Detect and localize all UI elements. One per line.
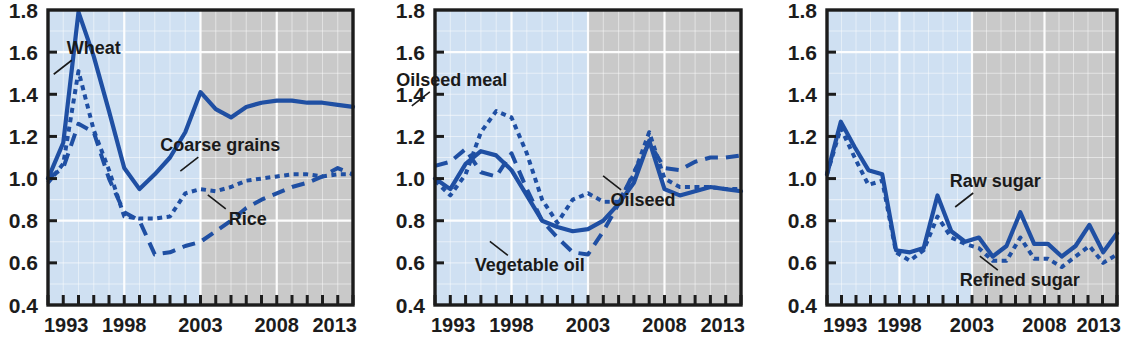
y-axis-tick-label: 1.6 (788, 41, 817, 64)
x-axis-tick-label: 1998 (102, 314, 147, 336)
x-axis-tick-label: 2013 (701, 314, 746, 336)
series-label-rice: Rice (229, 209, 267, 229)
y-axis-tick-label: 1.2 (396, 125, 425, 148)
y-axis-tick-label: 1.8 (396, 0, 426, 22)
y-axis-tick-label: 0.6 (396, 251, 425, 274)
x-axis-tick-label: 2003 (566, 314, 611, 336)
series-label-coarse-grains: Coarse grains (160, 135, 280, 155)
series-label-refined-sugar: Refined sugar (960, 270, 1080, 290)
series-label-vegetable-oil: Vegetable oil (475, 255, 585, 275)
y-axis-tick-label: 1.0 (788, 167, 817, 190)
y-axis-tick-label: 0.6 (788, 251, 817, 274)
series-label-oilseed-meal: Oilseed meal (396, 70, 507, 90)
y-axis-tick-label: 0.8 (788, 209, 818, 232)
x-axis-tick-label: 2003 (950, 314, 995, 336)
x-axis-tick-label: 2013 (1077, 314, 1122, 336)
y-axis-tick-label: 0.8 (9, 209, 39, 232)
chart-plot-area: 1.81.61.41.21.00.80.60.41993199820032008… (752, 0, 1130, 340)
y-axis-tick-label: 0.4 (9, 294, 39, 317)
y-axis-tick-label: 1.4 (788, 83, 818, 106)
y-axis-tick-label: 1.0 (396, 167, 425, 190)
x-axis-tick-label: 1998 (877, 314, 922, 336)
y-axis-tick-label: 1.2 (9, 125, 38, 148)
x-axis-tick-label: 1993 (823, 314, 868, 336)
x-axis-tick-label: 2003 (178, 314, 223, 336)
y-axis-tick-label: 1.8 (788, 0, 818, 22)
x-axis-tick-label: 2008 (642, 314, 687, 336)
chart-panel-2: 1.81.61.41.21.00.80.60.41993199820032008… (376, 0, 752, 340)
chart-plot-area: 1.81.61.41.21.00.80.60.41993199820032008… (376, 0, 752, 340)
x-axis-tick-label: 2013 (313, 314, 358, 336)
y-axis-tick-label: 1.6 (396, 41, 425, 64)
y-axis-tick-label: 1.2 (788, 125, 817, 148)
chart-panel-1: 1.81.61.41.21.00.80.60.41993199820032008… (0, 0, 376, 340)
y-axis-tick-label: 0.4 (788, 294, 818, 317)
y-axis-tick-label: 0.8 (396, 209, 426, 232)
chart-plot-area: 1.81.61.41.21.00.80.60.41993199820032008… (0, 0, 376, 340)
y-axis-tick-label: 1.8 (9, 0, 39, 22)
y-axis-tick-label: 1.0 (9, 167, 38, 190)
chart-panel-3: 1.81.61.41.21.00.80.60.41993199820032008… (752, 0, 1130, 340)
x-axis-tick-label: 1993 (431, 314, 476, 336)
x-axis-tick-label: 2008 (255, 314, 300, 336)
commodity-price-index-figure: 1.81.61.41.21.00.80.60.41993199820032008… (0, 0, 1130, 340)
y-axis-tick-label: 0.6 (9, 251, 38, 274)
y-axis-tick-label: 1.6 (9, 41, 38, 64)
series-label-oilseed: Oilseed (611, 190, 676, 210)
x-axis-tick-label: 1998 (489, 314, 534, 336)
x-axis-tick-label: 1993 (44, 314, 89, 336)
x-axis-tick-label: 2008 (1022, 314, 1067, 336)
y-axis-tick-label: 1.4 (9, 83, 39, 106)
series-label-wheat: Wheat (67, 38, 121, 58)
y-axis-tick-label: 0.4 (396, 294, 426, 317)
series-label-raw-sugar: Raw sugar (950, 171, 1041, 191)
